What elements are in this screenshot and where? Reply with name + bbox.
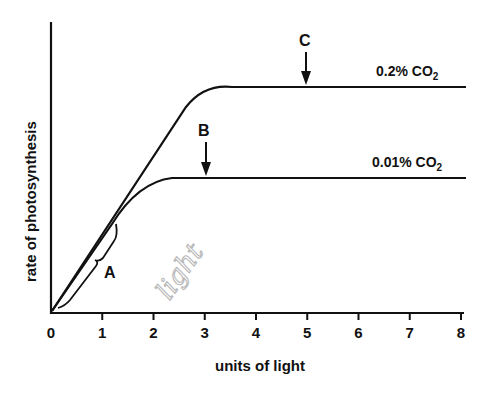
series-label-0.01pct: 0.01% CO2 — [372, 154, 443, 173]
x-tick-label: 5 — [303, 324, 311, 341]
x-tick-label: 3 — [201, 324, 209, 341]
photosynthesis-chart: 012345678 A light B C 0.2% CO2 0.01% CO2… — [0, 0, 494, 393]
arrow-down-icon — [301, 71, 311, 85]
x-tick-label: 0 — [47, 324, 55, 341]
x-tick-label: 6 — [354, 324, 362, 341]
x-tick-label: 2 — [149, 324, 157, 341]
curve-0.01pct-co2 — [52, 178, 466, 311]
handwritten-light-note: light — [150, 238, 210, 305]
x-tick-label: 1 — [98, 324, 106, 341]
x-axis-title: units of light — [215, 357, 305, 374]
marker-label-c: C — [299, 32, 311, 49]
series-label-0.2pct: 0.2% CO2 — [376, 63, 439, 82]
arrow-down-icon — [201, 162, 211, 176]
x-tick-label: 4 — [252, 324, 261, 341]
marker-label-b: B — [198, 122, 210, 139]
y-axis-title: rate of photosynthesis — [22, 121, 39, 282]
marker-label-a: A — [104, 264, 116, 281]
x-tick-label: 8 — [457, 324, 465, 341]
x-tick-label: 7 — [406, 324, 414, 341]
x-tick-labels: 012345678 — [47, 324, 465, 341]
